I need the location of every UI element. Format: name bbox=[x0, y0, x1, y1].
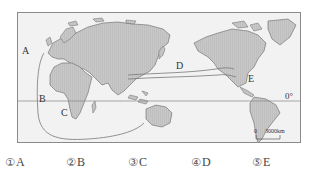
map-label-d: D bbox=[176, 61, 183, 71]
option-3-number: ③ bbox=[128, 156, 138, 169]
option-1-number: ① bbox=[5, 156, 15, 169]
equator-label: 0° bbox=[285, 91, 293, 101]
option-1-label: A bbox=[16, 155, 25, 169]
scale-zero-label: 0 bbox=[254, 128, 257, 134]
map-graphic bbox=[18, 13, 301, 143]
option-2[interactable]: ②B bbox=[66, 155, 85, 170]
south-america-landmass bbox=[250, 97, 280, 143]
africa-landmass bbox=[50, 63, 92, 119]
option-1[interactable]: ①A bbox=[5, 155, 25, 170]
north-america-landmass bbox=[194, 29, 266, 87]
option-4[interactable]: ④D bbox=[191, 155, 211, 170]
answer-options: ①A ②B ③C ④D ⑤E bbox=[0, 155, 313, 175]
map-label-e: E bbox=[248, 74, 254, 84]
map-label-a: A bbox=[22, 46, 29, 56]
map-label-c: C bbox=[61, 108, 68, 118]
map-label-b: B bbox=[39, 94, 46, 104]
option-4-number: ④ bbox=[191, 156, 201, 169]
greenland bbox=[268, 19, 296, 45]
scale-distance-label: 3000km bbox=[265, 128, 285, 134]
central-america bbox=[240, 87, 254, 97]
option-3-label: C bbox=[139, 155, 147, 169]
british-isles bbox=[46, 37, 52, 46]
australia-landmass bbox=[146, 105, 172, 127]
option-2-number: ② bbox=[66, 156, 76, 169]
option-5-number: ⑤ bbox=[252, 156, 262, 169]
southeast-asia-islands bbox=[128, 91, 148, 104]
option-3[interactable]: ③C bbox=[128, 155, 147, 170]
route-d-south bbox=[128, 75, 236, 79]
option-5[interactable]: ⑤E bbox=[252, 155, 270, 170]
madagascar bbox=[92, 101, 96, 113]
world-map: A B C D E 0° 0 3000km bbox=[17, 12, 301, 143]
option-5-label: E bbox=[263, 155, 270, 169]
option-4-label: D bbox=[202, 155, 211, 169]
option-2-label: B bbox=[77, 155, 85, 169]
